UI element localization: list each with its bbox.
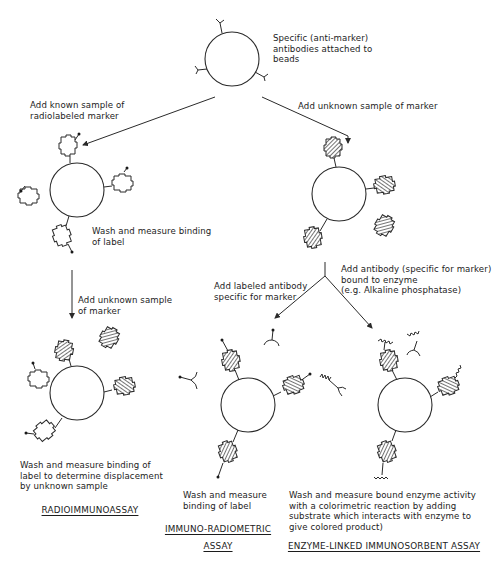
bead: [50, 366, 104, 420]
unknown-marker-icon: [324, 137, 342, 158]
ria-title: RADIOIMMUNOASSAY: [40, 505, 140, 516]
antibody-icon: [195, 66, 207, 74]
enzyme-icon: [374, 477, 388, 479]
labeled-antibody-icon: [180, 372, 197, 389]
unknown-marker-icon: [113, 375, 137, 396]
unknown-marker-icon: [216, 439, 240, 465]
split-left-label: Add labeled antibody specific for marker: [214, 281, 307, 302]
elisa-title: ENZYME-LINKED IMMUNOSORBENT ASSAY: [284, 541, 484, 552]
ria-caption: Wash and measure binding of label to det…: [20, 460, 163, 492]
ria-bead-group: [25, 324, 137, 444]
unknown-marker-icon: [281, 373, 307, 397]
antibody-icon: [255, 72, 268, 81]
antibody-icon: [216, 19, 224, 33]
top-bead-group: [195, 19, 268, 86]
radiolabeled-marker-icon: [31, 417, 59, 444]
left-down-arrow-label: Add unknown sample of marker: [78, 295, 172, 316]
top-bead: [205, 32, 259, 86]
bead: [221, 378, 275, 432]
right-arrow-label: Add unknown sample of marker: [298, 101, 438, 112]
enzyme-icon: [455, 365, 461, 378]
top-caption: Specific (anti-marker) antibodies attach…: [273, 33, 372, 65]
left-arrow-label: Add known sample of radiolabeled marker: [30, 100, 124, 121]
radiolabeled-marker-icon: [28, 370, 49, 388]
split-right-label: Add antibody (specific for marker) bound…: [341, 264, 491, 296]
labeled-antibody-icon: [264, 330, 279, 346]
radiolabeled-marker-icon: [50, 223, 74, 249]
enzyme-icon: [320, 374, 331, 380]
enzyme-antibody-icon: [407, 341, 420, 356]
irma-bead-group: [216, 339, 312, 479]
unknown-marker-icon: [53, 339, 74, 363]
right-bead-1-group: [302, 137, 397, 249]
left-step-caption: Wash and measure binding of label: [92, 226, 211, 247]
unknown-marker-icon: [220, 349, 241, 373]
bead: [378, 378, 432, 432]
bead: [312, 167, 366, 221]
elisa-caption: Wash and measure bound enzyme activity w…: [289, 490, 476, 532]
radiolabeled-marker-icon: [112, 174, 133, 192]
elisa-bead-group: [374, 339, 461, 479]
irma-title: IMMUNO-RADIOMETRIC ASSAY: [163, 521, 273, 555]
unknown-marker-icon: [96, 324, 122, 351]
enzyme-icon: [407, 331, 419, 336]
unknown-marker-icon: [378, 349, 399, 373]
unknown-marker-icon: [302, 226, 323, 250]
unknown-marker-icon: [371, 212, 397, 239]
unknown-marker-icon: [436, 374, 462, 398]
enzyme-icon: [378, 339, 393, 344]
bead: [50, 163, 104, 217]
radiolabeled-marker-icon: [59, 135, 77, 156]
unknown-marker-icon: [375, 439, 399, 465]
enzyme-antibody-icon: [329, 380, 346, 396]
irma-caption: Wash and measure binding of label: [183, 490, 267, 511]
unknown-marker-icon: [373, 174, 397, 195]
